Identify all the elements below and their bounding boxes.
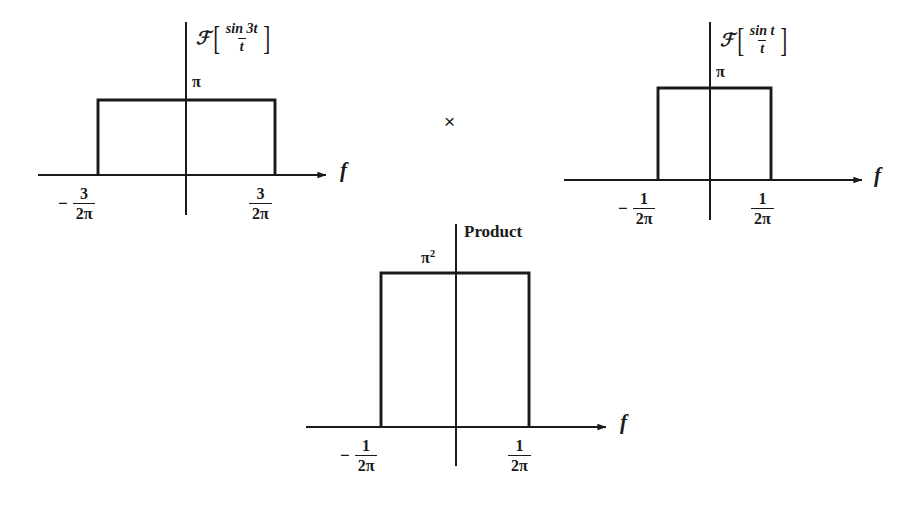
panel-product-negative-edge-numerator: 1 <box>359 438 373 455</box>
panel-left-axis-variable: f <box>340 160 347 181</box>
panel-left-negative-edge-denominator: 2π <box>73 203 96 222</box>
panel-right-denominator: t <box>758 40 766 57</box>
minus-sign-icon: − <box>340 447 355 464</box>
panel-product-amplitude-label: π2 <box>421 248 435 266</box>
minus-sign-icon: − <box>618 200 633 217</box>
panel-product-amplitude-exponent: 2 <box>430 247 436 259</box>
bracket-left-icon: [ <box>737 27 744 54</box>
script-f-icon: ℱ <box>196 29 211 47</box>
figure-root: ℱ [ sin 3t t ] π f − 3 2π 3 2π × ℱ [ sin… <box>0 0 917 511</box>
panel-product-positive-edge-tick: 1 2π <box>508 438 531 474</box>
figure-line-art <box>0 0 917 511</box>
panel-left-operator-label: ℱ [ sin 3t t ] <box>196 22 273 54</box>
panel-right-rect-pulse <box>658 88 771 180</box>
panel-right-negative-edge-denominator: 2π <box>633 208 656 227</box>
panel-product-title: Product <box>464 223 522 240</box>
panel-product-axis-variable: f <box>620 412 627 433</box>
panel-right-positive-edge-denominator: 2π <box>751 208 774 227</box>
panel-product-axes <box>306 224 606 466</box>
panel-product-positive-edge-numerator: 1 <box>512 438 526 455</box>
panel-left-numerator: sin 3t <box>224 22 260 38</box>
panel-left-negative-edge-numerator: 3 <box>77 186 91 203</box>
panel-right-positive-edge-numerator: 1 <box>755 191 769 208</box>
panel-right-numerator: sin t <box>748 24 777 40</box>
panel-right-negative-edge-numerator: 1 <box>637 191 651 208</box>
panel-product-amplitude-base: π <box>421 249 430 266</box>
panel-product-negative-edge-tick: − 1 2π <box>340 438 377 474</box>
minus-sign-icon: − <box>58 195 73 212</box>
panel-right-amplitude-label: π <box>716 64 725 80</box>
panel-right-operator-label: ℱ [ sin t t ] <box>720 24 790 56</box>
panel-right-axis-variable: f <box>874 165 881 186</box>
panel-left-positive-edge-tick: 3 2π <box>249 186 272 222</box>
panel-product-negative-edge-fraction: 1 2π <box>355 438 378 474</box>
panel-left-positive-edge-denominator: 2π <box>249 203 272 222</box>
panel-left-negative-edge-tick: − 3 2π <box>58 186 95 222</box>
bracket-right-icon: ] <box>263 25 270 52</box>
panel-product-positive-edge-denominator: 2π <box>508 455 531 474</box>
script-f-icon: ℱ <box>720 31 735 49</box>
panel-left-denominator: t <box>238 38 246 55</box>
panel-right-fraction: sin t t <box>746 24 779 56</box>
panel-left-negative-edge-fraction: 3 2π <box>73 186 96 222</box>
bracket-left-icon: [ <box>213 25 220 52</box>
panel-left-fraction: sin 3t t <box>222 22 262 54</box>
panel-product-negative-edge-denominator: 2π <box>355 455 378 474</box>
multiplication-operator-icon: × <box>444 112 455 131</box>
panel-right-positive-edge-tick: 1 2π <box>751 191 774 227</box>
panel-left-amplitude-label: π <box>192 74 201 90</box>
panel-left-positive-edge-fraction: 3 2π <box>249 186 272 222</box>
panel-right-positive-edge-fraction: 1 2π <box>751 191 774 227</box>
bracket-right-icon: ] <box>780 27 787 54</box>
panel-left-positive-edge-numerator: 3 <box>253 186 267 203</box>
panel-right-negative-edge-fraction: 1 2π <box>633 191 656 227</box>
panel-right-axes <box>564 22 862 220</box>
panel-product-positive-edge-fraction: 1 2π <box>508 438 531 474</box>
panel-right-negative-edge-tick: − 1 2π <box>618 191 655 227</box>
